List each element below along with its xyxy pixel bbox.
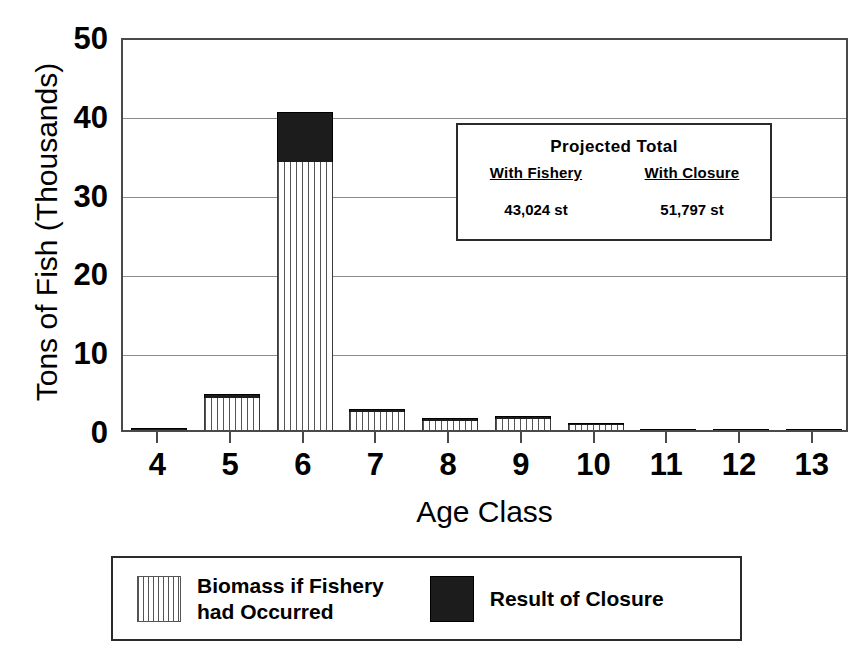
bar-segment-fishery-age-8	[422, 421, 478, 430]
bar-age-8	[422, 418, 478, 430]
bar-segment-closure-age-13	[786, 429, 842, 430]
x-axis-tick-11: 11	[626, 447, 706, 483]
bar-segment-closure-age-11	[640, 429, 696, 430]
bar-age-5	[204, 394, 260, 430]
chart-legend: Biomass if Fishery had Occurred Result o…	[111, 556, 742, 641]
inset-column-with-fishery: With Fishery 43,024 st	[458, 164, 614, 218]
x-axis-tickmark-10	[593, 432, 595, 443]
legend-entry-biomass-if-fishery: Biomass if Fishery had Occurred	[137, 573, 384, 623]
x-axis-tickmark-9	[520, 432, 522, 443]
bar-segment-fishery-age-9	[495, 419, 551, 430]
solid-black-swatch-icon	[430, 576, 474, 622]
x-axis-tick-8: 8	[408, 447, 488, 483]
legend-label-result-of-closure: Result of Closure	[490, 586, 664, 611]
y-axis-tick-20: 20	[48, 259, 108, 290]
x-axis-tickmark-4	[156, 432, 158, 443]
bar-segment-closure-age-4	[131, 428, 187, 430]
x-axis-tick-9: 9	[481, 447, 561, 483]
bar-segment-fishery-age-10	[568, 425, 624, 430]
bar-segment-fishery-age-7	[349, 412, 405, 430]
y-axis-tick-40: 40	[48, 102, 108, 133]
projected-total-inset: Projected Total With Fishery 43,024 st W…	[456, 123, 772, 241]
bar-segment-fishery-age-6	[277, 162, 333, 430]
y-axis-tick-group: 50 40 30 20 10 0	[48, 0, 108, 661]
x-axis-tick-13: 13	[772, 447, 852, 483]
bar-segment-closure-age-12	[713, 429, 769, 430]
inset-columns: With Fishery 43,024 st With Closure 51,7…	[458, 164, 770, 218]
striped-swatch-icon	[137, 576, 181, 622]
legend-label-biomass-if-fishery: Biomass if Fishery had Occurred	[197, 573, 384, 623]
x-axis-label: Age Class	[121, 495, 848, 529]
bar-age-6	[277, 112, 333, 430]
bar-segment-fishery-age-5	[204, 398, 260, 430]
y-axis-tick-30: 30	[48, 181, 108, 212]
x-axis-tick-10: 10	[554, 447, 634, 483]
x-axis-tickmark-12	[738, 432, 740, 443]
inset-column-with-closure: With Closure 51,797 st	[614, 164, 770, 218]
legend-entry-result-of-closure: Result of Closure	[430, 576, 664, 622]
inset-header-with-closure: With Closure	[614, 164, 770, 181]
x-axis-tickmark-8	[447, 432, 449, 443]
y-axis-tick-0: 0	[48, 417, 108, 448]
inset-title: Projected Total	[458, 137, 770, 157]
x-axis-tick-6: 6	[263, 447, 343, 483]
y-axis-tick-10: 10	[48, 338, 108, 369]
x-axis-tick-12: 12	[699, 447, 779, 483]
inset-value-with-closure: 51,797 st	[614, 201, 770, 218]
x-axis-tick-7: 7	[335, 447, 415, 483]
x-axis-tickmark-11	[665, 432, 667, 443]
bar-age-10	[568, 423, 624, 430]
inset-value-with-fishery: 43,024 st	[458, 201, 614, 218]
x-axis-tick-5: 5	[190, 447, 270, 483]
y-axis-tick-50: 50	[48, 23, 108, 54]
x-axis-tickmark-13	[811, 432, 813, 443]
inset-header-with-fishery: With Fishery	[458, 164, 614, 181]
bar-age-9	[495, 416, 551, 430]
x-axis-tickmark-6	[302, 432, 304, 443]
bar-segment-closure-age-6	[277, 112, 333, 162]
bar-age-4	[131, 428, 187, 430]
x-axis-tickmark-5	[229, 432, 231, 443]
x-axis-tickmark-7	[374, 432, 376, 443]
bar-age-7	[349, 409, 405, 430]
chart-figure: Tons of Fish (Thousands) 50 40 30 20 10 …	[0, 0, 868, 661]
x-axis-tick-4: 4	[117, 447, 197, 483]
